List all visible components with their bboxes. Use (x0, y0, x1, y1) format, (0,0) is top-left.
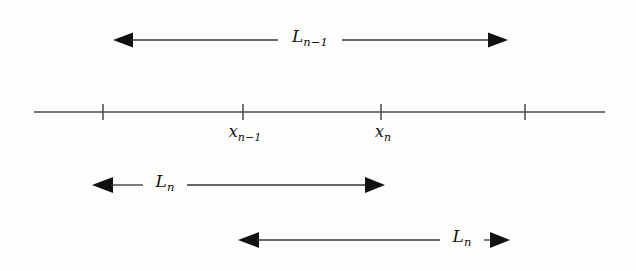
tick-label-x-n-minus-1: xn−1 (229, 124, 262, 143)
length-label-subscript: n (167, 180, 175, 194)
figure-canvas: Ln−1 xn−1 xn Ln Ln (0, 0, 636, 271)
arrowhead-right (365, 177, 385, 193)
tick-label-base: x (375, 122, 384, 141)
length-label-base: L (453, 226, 464, 246)
length-label-subscript: n (464, 235, 472, 249)
tick-label-base: x (229, 122, 238, 141)
tick-label-x-n: xn (375, 124, 391, 143)
length-label-subscript: n−1 (303, 35, 328, 49)
length-label-base: L (292, 26, 303, 46)
arrowhead-right (490, 232, 510, 248)
length-label-l-n-left: Ln (156, 173, 175, 193)
arrowhead-right (488, 33, 508, 48)
length-label-base: L (156, 171, 167, 191)
arrowhead-left (113, 33, 133, 48)
length-label-l-n-minus-1: Ln−1 (292, 28, 328, 48)
tick-label-subscript: n (384, 131, 391, 144)
arrowhead-left (238, 232, 259, 248)
arrowhead-left (92, 177, 113, 193)
length-label-l-n-right: Ln (453, 228, 472, 248)
length-arrow-l-n-left (92, 177, 385, 193)
tick-label-subscript: n−1 (238, 131, 262, 144)
